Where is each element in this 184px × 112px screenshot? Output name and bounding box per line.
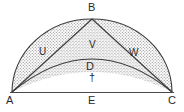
region-label-v: V [89,40,96,50]
vertex-label-e: E [88,95,96,106]
dagger-icon: † [89,72,95,83]
region-label-u: U [39,47,46,57]
vertex-label-c: C [168,95,176,106]
vertex-label-b: B [88,2,96,13]
geometry-figure: A B C D E U V W † [0,0,184,112]
region-label-w: W [129,48,139,58]
vertex-label-a: A [6,95,14,106]
